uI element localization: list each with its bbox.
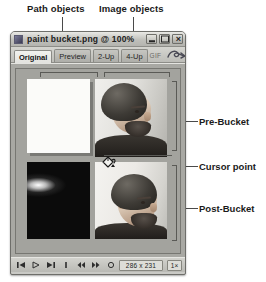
portrait-hair (101, 83, 147, 121)
paint-bucket-cursor (100, 155, 118, 171)
tab-preview[interactable]: Preview (54, 49, 91, 62)
preview-in-browser-icon[interactable] (166, 49, 186, 61)
callout-label-cursor-point: Cursor point (199, 161, 256, 172)
canvas-area[interactable] (11, 63, 185, 257)
screenshot-root: Path objects Image objects Pre-Bucket Cu… (0, 0, 266, 282)
portrait-shirt (95, 223, 167, 239)
tabbar-right-group: GIF (150, 49, 186, 62)
last-frame-button[interactable] (44, 260, 58, 271)
image-editor-window: paint bucket.png @ 100% × Original Previ… (10, 31, 186, 275)
minimize-button[interactable] (146, 34, 157, 44)
window-title: paint bucket.png @ 100% (27, 34, 144, 44)
close-button[interactable]: × (172, 34, 183, 44)
portrait-nose (150, 203, 157, 212)
callout-label-pre-bucket: Pre-Bucket (199, 116, 249, 127)
tab-2-up[interactable]: 2-Up (93, 49, 119, 62)
portrait-eye (141, 201, 145, 204)
zoom-level-field[interactable]: 1× (167, 260, 182, 271)
leader-line-cursor-point (186, 166, 198, 167)
image-grid[interactable] (27, 79, 167, 239)
play-button[interactable] (29, 260, 43, 271)
stop-button[interactable] (59, 260, 73, 271)
leader-line-post-bucket (186, 208, 198, 209)
close-icon: × (173, 34, 184, 44)
quadrant-bottom-right-post-bucket[interactable] (95, 162, 167, 239)
callout-label-post-bucket: Post-Bucket (199, 203, 254, 214)
export-format-label: GIF (150, 52, 162, 59)
quadrant-bottom-left-path-object[interactable] (27, 162, 90, 239)
bracket-path-objects (40, 72, 98, 77)
quadrant-top-left-path-object[interactable] (27, 79, 90, 153)
portrait-shirt (95, 135, 167, 157)
next-frame-button[interactable] (89, 260, 103, 271)
tab-4-up[interactable]: 4-Up (121, 49, 147, 62)
portrait-nose (144, 112, 151, 121)
portrait-eye (135, 110, 139, 113)
portrait-image-post-bucket (95, 162, 167, 239)
previous-frame-button[interactable] (74, 260, 88, 271)
canvas-viewport[interactable] (15, 68, 181, 254)
tab-original[interactable]: Original (14, 50, 52, 63)
quadrant-top-right-pre-bucket[interactable] (95, 79, 167, 157)
loop-button[interactable] (104, 260, 118, 271)
callout-label-image-objects: Image objects (99, 3, 164, 14)
bracket-pre-bucket (172, 81, 177, 151)
animation-statusbar: 286 x 231 1× (11, 257, 185, 272)
maximize-button[interactable] (159, 34, 170, 44)
bracket-post-bucket (172, 165, 177, 241)
callout-label-path-objects: Path objects (27, 3, 85, 14)
document-icon (14, 35, 23, 44)
leader-line-pre-bucket (186, 121, 198, 122)
window-titlebar[interactable]: paint bucket.png @ 100% × (11, 32, 185, 47)
portrait-image-pre-bucket (95, 79, 167, 157)
preview-mode-tabbar: Original Preview 2-Up 4-Up GIF (11, 47, 185, 63)
first-frame-button[interactable] (14, 260, 28, 271)
image-dimensions-field: 286 x 231 (119, 260, 163, 271)
bracket-image-objects (104, 72, 170, 77)
